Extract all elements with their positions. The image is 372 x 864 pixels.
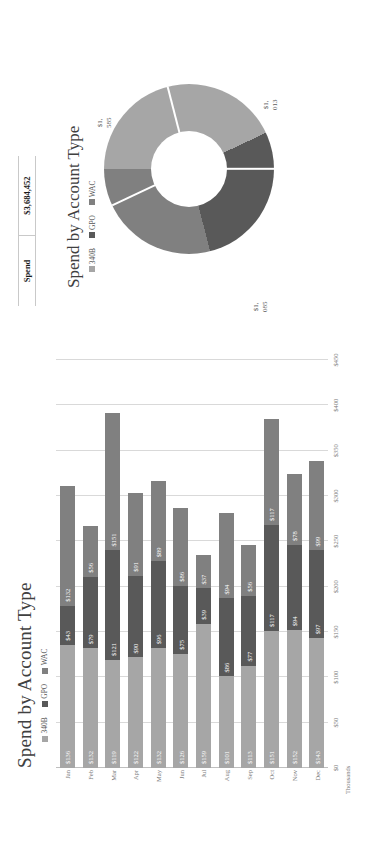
bar-row[interactable]: $152$94$78 xyxy=(287,474,302,768)
bar-row[interactable]: $136$43$132 xyxy=(60,486,75,768)
bar-row[interactable]: $101$86$94 xyxy=(219,513,234,768)
category-label-may: May xyxy=(155,770,162,790)
bar-segment-wac[interactable]: $94 xyxy=(219,513,234,598)
spend-total-value: $3,684,452 xyxy=(19,156,35,235)
category-label-apr: Apr xyxy=(132,770,139,790)
donut-data-label-wac: $1,085 xyxy=(252,302,270,313)
table-row: Spend $3,684,452 xyxy=(19,156,35,306)
bar-segment-wac[interactable]: $132 xyxy=(60,486,75,606)
bar-value-label: $94 xyxy=(223,585,230,595)
bar-chart-legend: 340B GPO WAC xyxy=(40,649,49,742)
bar-segment-340b[interactable]: $126 xyxy=(173,654,188,768)
donut-legend-item-wac: WAC xyxy=(88,181,97,205)
donut-chart xyxy=(104,84,274,254)
bar-segment-gpo[interactable]: $96 xyxy=(151,561,166,648)
bar-row[interactable]: $132$96$89 xyxy=(151,481,166,768)
category-label-jun: Jun xyxy=(177,770,184,790)
bar-segment-gpo[interactable]: $97 xyxy=(309,550,324,638)
bar-row[interactable]: $122$90$91 xyxy=(128,493,143,768)
category-label-sep: Sep xyxy=(245,770,252,790)
category-label-dec: Dec xyxy=(313,770,320,790)
bar-segment-340b[interactable]: $152 xyxy=(287,630,302,768)
legend-item-340b: 340B xyxy=(40,717,49,742)
bar-segment-gpo[interactable]: $79 xyxy=(83,577,98,649)
bar-rows: $136$43$132$132$79$56$119$121$151$122$90… xyxy=(56,360,328,768)
bar-value-label: $113 xyxy=(245,751,252,764)
bar-segment-gpo[interactable]: $43 xyxy=(60,606,75,645)
bar-chart-plot-area: $136$43$132$132$79$56$119$121$151$122$90… xyxy=(56,360,328,768)
bar-segment-340b[interactable]: $136 xyxy=(60,645,75,768)
bar-value-label: $56 xyxy=(87,563,94,573)
legend-swatch-340b xyxy=(42,736,48,742)
bar-segment-gpo[interactable]: $39 xyxy=(196,588,211,623)
legend-label-340b: 340B xyxy=(40,717,49,733)
bar-segment-wac[interactable]: $91 xyxy=(128,493,143,576)
bar-segment-wac[interactable]: $117 xyxy=(264,419,279,525)
bar-value-label: $96 xyxy=(155,635,162,645)
bar-value-label: $101 xyxy=(223,751,230,764)
bar-segment-wac[interactable]: $151 xyxy=(105,414,120,551)
donut-legend-swatch-gpo xyxy=(89,232,95,238)
bar-segment-wac[interactable]: $78 xyxy=(287,474,302,545)
bar-value-label: $126 xyxy=(177,751,184,764)
bar-segment-wac[interactable]: $56 xyxy=(83,526,98,577)
report-page: Spend by Account Type 340B GPO WAC $136$… xyxy=(0,0,372,864)
bar-segment-340b[interactable]: $101 xyxy=(219,676,234,768)
bar-segment-340b[interactable]: $143 xyxy=(309,638,324,768)
bar-segment-gpo[interactable]: $94 xyxy=(287,545,302,630)
legend-label-wac: WAC xyxy=(40,649,49,666)
legend-swatch-gpo xyxy=(42,701,48,707)
bar-value-label: $37 xyxy=(200,575,207,585)
bar-value-label: $151 xyxy=(109,533,116,546)
bar-segment-gpo[interactable]: $86 xyxy=(219,598,234,676)
category-label-mar: Mar xyxy=(109,770,116,790)
bar-value-label: $132 xyxy=(87,751,94,764)
legend-label-gpo: GPO xyxy=(40,684,49,699)
bar-row[interactable]: $151$117$117 xyxy=(264,419,279,768)
bar-segment-wac[interactable]: $37 xyxy=(196,555,211,589)
bar-row[interactable]: $143$97$99 xyxy=(309,461,324,768)
bar-segment-wac[interactable]: $89 xyxy=(151,481,166,562)
bar-segment-gpo[interactable]: $121 xyxy=(105,550,120,660)
bar-value-label: $159 xyxy=(200,751,207,764)
bar-row[interactable]: $126$75$86 xyxy=(173,508,188,768)
value-axis-tick: $350 xyxy=(332,444,339,457)
bar-segment-340b[interactable]: $113 xyxy=(241,666,256,768)
category-label-feb: Feb xyxy=(87,770,94,790)
bar-segment-gpo[interactable]: $117 xyxy=(264,525,279,631)
bar-segment-wac[interactable]: $99 xyxy=(309,461,324,551)
bar-segment-wac[interactable]: $86 xyxy=(173,508,188,586)
bar-segment-340b[interactable]: $132 xyxy=(83,648,98,768)
value-axis-tick: $100 xyxy=(332,671,339,684)
value-axis-tick: $0 xyxy=(332,765,339,772)
value-axis-tick: $150 xyxy=(332,626,339,639)
bar-segment-340b[interactable]: $159 xyxy=(196,624,211,768)
bar-segment-gpo[interactable]: $77 xyxy=(241,596,256,666)
bar-row[interactable]: $159$39$37 xyxy=(196,555,211,768)
bar-row[interactable]: $119$121$151 xyxy=(105,414,120,769)
bar-row[interactable]: $132$79$56 xyxy=(83,526,98,768)
legend-item-gpo: GPO xyxy=(40,684,49,708)
bar-segment-wac[interactable]: $56 xyxy=(241,545,256,596)
bar-value-label: $132 xyxy=(64,589,71,602)
value-axis-tick: $400 xyxy=(332,399,339,412)
bar-value-label: $56 xyxy=(245,582,252,592)
category-label-jul: Jul xyxy=(200,770,207,790)
bar-segment-gpo[interactable]: $90 xyxy=(128,576,143,658)
bar-segment-340b[interactable]: $132 xyxy=(151,648,166,768)
bar-segment-340b[interactable]: $151 xyxy=(264,631,279,768)
donut-legend-item-340b: 340B xyxy=(88,248,97,272)
donut-chart-title: Spend by Account Type xyxy=(64,126,84,288)
bar-value-label: $136 xyxy=(64,751,71,764)
bar-row[interactable]: $113$77$56 xyxy=(241,545,256,768)
spend-table: Spend $3,684,452 xyxy=(18,156,36,306)
bar-value-label: $86 xyxy=(177,572,184,582)
bar-value-label: $132 xyxy=(155,751,162,764)
bar-segment-gpo[interactable]: $75 xyxy=(173,586,188,654)
bar-segment-340b[interactable]: $122 xyxy=(128,657,143,768)
bar-segment-340b[interactable]: $119 xyxy=(105,660,120,768)
category-label-aug: Aug xyxy=(223,770,230,790)
donut-slice-separator xyxy=(189,168,274,170)
bar-value-label: $143 xyxy=(313,751,320,764)
bar-value-label: $119 xyxy=(109,751,116,764)
